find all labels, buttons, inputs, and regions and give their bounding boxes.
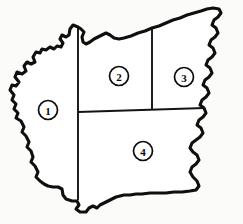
region-label-text-3: 3 bbox=[181, 72, 187, 84]
region-map-svg: 1234 bbox=[0, 0, 243, 224]
region-label-text-1: 1 bbox=[45, 105, 51, 117]
region-label-text-4: 4 bbox=[140, 146, 146, 158]
region-label-2[interactable]: 2 bbox=[110, 67, 129, 86]
region-label-1[interactable]: 1 bbox=[39, 101, 58, 120]
region-label-3[interactable]: 3 bbox=[175, 68, 194, 87]
region-label-text-2: 2 bbox=[116, 71, 122, 83]
region-map-figure: 1234 bbox=[0, 0, 243, 224]
region-label-4[interactable]: 4 bbox=[134, 142, 153, 161]
